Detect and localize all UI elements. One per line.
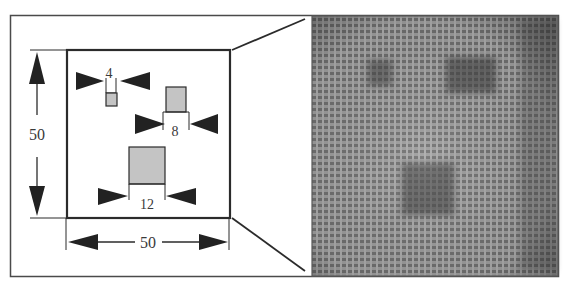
defect-8-label: 8 (172, 124, 179, 139)
height-label: 50 (29, 126, 45, 143)
figure: 50 50 4 8 (0, 0, 570, 284)
zoom-line-bottom (232, 218, 305, 271)
width-label: 50 (140, 234, 156, 251)
zoom-line-top (232, 19, 305, 50)
arrow-left-icon (68, 234, 98, 250)
schematic-panel: 50 50 4 8 (29, 19, 305, 271)
defect-12-label: 12 (140, 197, 154, 212)
height-dimension: 50 (29, 50, 67, 218)
arrow-right-icon (199, 234, 228, 250)
defect-4-label: 4 (106, 66, 113, 81)
width-dimension: 50 (66, 218, 229, 251)
arrow-up-icon (29, 52, 45, 84)
image-panel (312, 16, 558, 276)
arrow-down-icon (29, 186, 45, 216)
